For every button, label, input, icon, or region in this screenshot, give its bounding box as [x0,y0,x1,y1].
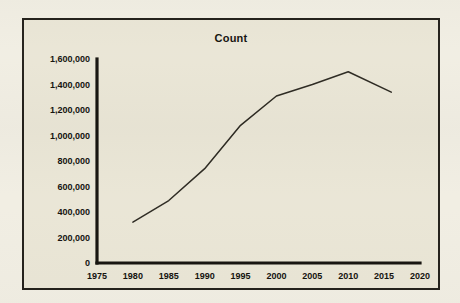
x-axis-tick-label: 1975 [87,271,107,281]
y-axis-tick-label: 0 [85,258,90,268]
data-series-line-count [133,72,391,222]
x-axis-tick-label: 1985 [159,271,179,281]
y-axis-tick-label: 1,000,000 [50,131,90,141]
line-chart-plot: 0200,000400,000600,000800,0001,000,0001,… [24,20,442,292]
x-axis-tick-label: 1990 [195,271,215,281]
y-axis-tick-label: 600,000 [57,182,90,192]
y-axis-tick-label: 800,000 [57,156,90,166]
y-axis-tick-label: 200,000 [57,233,90,243]
x-axis-tick-label: 2010 [338,271,358,281]
x-axis-tick-label: 2015 [374,271,394,281]
y-axis-tick-label: 1,400,000 [50,80,90,90]
x-axis-tick-label: 1980 [123,271,143,281]
x-axis-tick-labels: 1975198019851990199520002005201020152020 [87,271,430,281]
y-axis-tick-label: 400,000 [57,207,90,217]
y-axis-tick-labels: 0200,000400,000600,000800,0001,000,0001,… [50,54,90,268]
chart-page: Count 0200,000400,000600,000800,0001,000… [0,0,460,303]
x-axis-tick-label: 2020 [410,271,430,281]
x-axis-tick-label: 2000 [266,271,286,281]
x-axis-tick-label: 2005 [302,271,322,281]
chart-frame: Count 0200,000400,000600,000800,0001,000… [22,18,440,290]
x-axis-tick-label: 1995 [231,271,251,281]
y-axis-tick-label: 1,200,000 [50,105,90,115]
y-axis-tick-label: 1,600,000 [50,54,90,64]
